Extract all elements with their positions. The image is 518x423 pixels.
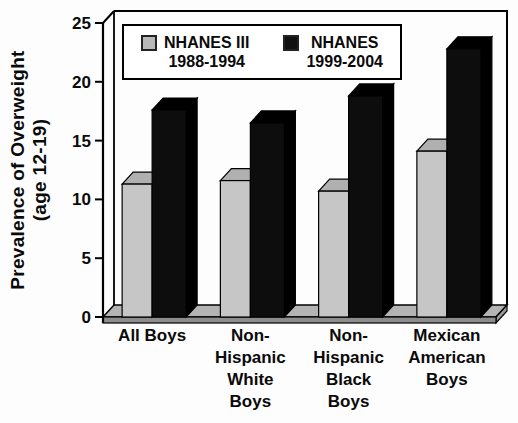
- bar-0-3: [417, 151, 447, 317]
- legend-marker-nhanes-icon: [283, 35, 299, 51]
- axis-top-diagonal: [103, 11, 114, 23]
- bar-1-3: [447, 49, 481, 317]
- y-tick-label: 15: [72, 132, 91, 151]
- legend-item-nhanes: NHANES 1999-2004: [283, 33, 383, 71]
- y-tick-label: 5: [82, 249, 91, 268]
- y-tick-label: 25: [72, 14, 91, 33]
- bar-0-1: [220, 181, 250, 317]
- y-axis-title-line1: Prevalence of Overweight: [7, 10, 29, 330]
- bar-1-1: [250, 123, 284, 317]
- bar-side-1-0: [186, 98, 197, 317]
- legend-text-nhanes-iii: NHANES III 1988-1994: [164, 33, 249, 71]
- bar-0-0: [122, 184, 152, 317]
- y-axis-title: Prevalence of Overweight (age 12-19): [7, 10, 53, 330]
- bar-side-1-2: [383, 84, 394, 317]
- legend-label-nhanes: NHANES: [306, 33, 383, 52]
- bar-side-1-3: [481, 37, 492, 317]
- bar-1-0: [152, 110, 186, 317]
- bar-side-1-1: [284, 111, 295, 317]
- x-category-label: MexicanAmericanBoys: [408, 326, 485, 389]
- legend-item-nhanes-iii: NHANES III 1988-1994: [141, 33, 249, 71]
- legend-marker-nhanes-iii-icon: [141, 35, 157, 51]
- x-category-label: Non-HispanicWhiteBoys: [215, 326, 286, 411]
- bar-0-2: [319, 191, 349, 317]
- y-tick-label: 10: [72, 190, 91, 209]
- legend-text-nhanes: NHANES 1999-2004: [306, 33, 383, 71]
- x-category-label: All Boys: [118, 326, 186, 345]
- legend-label-nhanes-iii: NHANES III: [164, 33, 249, 52]
- bar-1-2: [349, 96, 383, 317]
- legend-sublabel-nhanes: 1999-2004: [306, 52, 383, 71]
- x-category-label: Non-HispanicBlackBoys: [313, 326, 384, 411]
- y-axis-title-line2: (age 12-19): [29, 10, 51, 330]
- legend-sublabel-nhanes-iii: 1988-1994: [164, 52, 249, 71]
- y-tick-label: 20: [72, 73, 91, 92]
- floor-front: [103, 317, 496, 323]
- figure: 0510152025All BoysNon-HispanicWhiteBoysN…: [0, 0, 518, 423]
- y-tick-label: 0: [82, 308, 91, 327]
- legend: NHANES III 1988-1994 NHANES 1999-2004: [122, 24, 402, 80]
